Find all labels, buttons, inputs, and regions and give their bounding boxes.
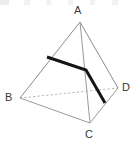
edge-ab [20,22,80,98]
vertex-label-a: A [74,5,81,16]
edge-bc [20,98,90,123]
edge-cd [90,88,118,123]
edge-bd-hidden [20,88,118,98]
vertex-label-b: B [5,92,12,103]
vertex-label-d: D [122,82,130,93]
highlight-path [47,57,105,103]
vertex-label-c: C [85,129,93,140]
tetrahedron-drawing [0,0,137,147]
geometry-figure: A B C D [0,0,137,147]
